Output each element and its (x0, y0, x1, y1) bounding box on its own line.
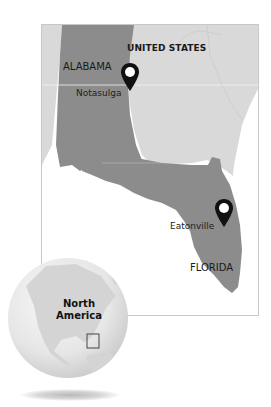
state-label-alabama: ALABAMA (63, 61, 112, 72)
region-label: North America (54, 298, 104, 322)
country-label: UNITED STATES (127, 43, 206, 53)
locator-globe: North America (6, 256, 131, 381)
map-pin-icon[interactable] (120, 62, 140, 92)
region-label-line1: North (54, 298, 104, 310)
city-label-notasulga: Notasulga (76, 88, 121, 98)
map-pin-icon[interactable] (214, 198, 234, 228)
region-label-line2: America (54, 310, 104, 322)
state-label-florida: FLORIDA (190, 262, 233, 273)
globe-shadow (20, 389, 120, 401)
city-label-eatonville: Eatonville (170, 221, 214, 231)
